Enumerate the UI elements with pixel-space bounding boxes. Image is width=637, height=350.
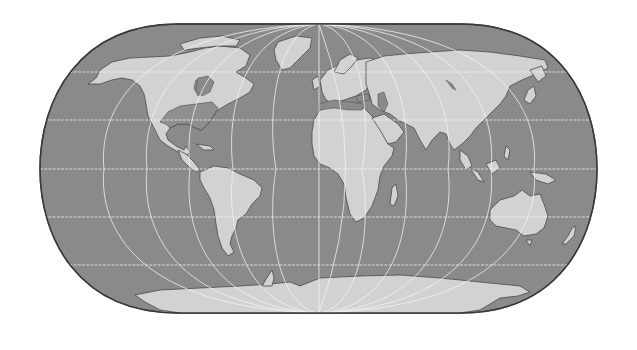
world-map-svg	[0, 0, 637, 350]
world-map	[0, 0, 637, 350]
